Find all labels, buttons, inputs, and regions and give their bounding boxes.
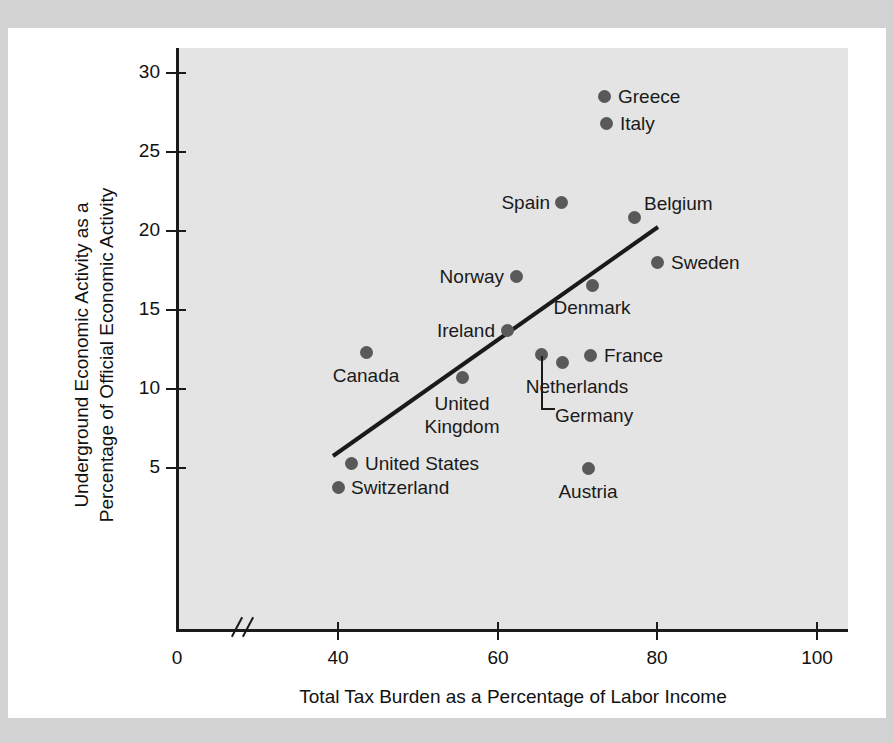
y-tick-label-10: 10 [124, 378, 160, 397]
x-tick-label-80: 80 [627, 648, 687, 667]
point-label-ireland: Ireland [371, 319, 495, 342]
y-tick-25 [166, 151, 186, 153]
point-label-germany: Germany [555, 404, 633, 427]
point-label-united-kingdom: United Kingdom [400, 392, 524, 438]
point-label-greece: Greece [618, 85, 680, 108]
point-label-norway: Norway [380, 265, 504, 288]
x-axis-line [176, 629, 848, 632]
data-point-denmark[interactable] [586, 279, 599, 292]
data-point-united-kingdom[interactable] [456, 371, 469, 384]
y-tick-10 [166, 388, 186, 390]
point-label-belgium: Belgium [644, 192, 713, 215]
point-label-france: France [604, 344, 663, 367]
plot-area [178, 48, 848, 630]
y-tick-15 [166, 309, 186, 311]
x-tick-label-40: 40 [308, 648, 368, 667]
x-tick-40 [337, 622, 339, 640]
data-point-united-states[interactable] [345, 457, 358, 470]
y-tick-labels: 30 25 20 15 10 5 [118, 0, 160, 743]
x-tick-label-0: 0 [147, 648, 207, 667]
x-axis-break-icon [230, 612, 264, 642]
data-point-france[interactable] [584, 349, 597, 362]
y-tick-5 [166, 467, 186, 469]
point-label-united-states: United States [365, 452, 479, 475]
x-tick-label-100: 100 [787, 648, 847, 667]
x-tick-100 [816, 622, 818, 640]
point-label-austria: Austria [528, 480, 648, 503]
point-label-spain: Spain [426, 191, 550, 214]
data-point-sweden[interactable] [651, 256, 664, 269]
y-tick-label-30: 30 [124, 62, 160, 81]
data-point-ireland[interactable] [501, 324, 514, 337]
point-label-denmark: Denmark [522, 296, 662, 319]
point-label-switzerland: Switzerland [351, 476, 449, 499]
data-point-belgium[interactable] [628, 211, 641, 224]
y-tick-20 [166, 230, 186, 232]
data-point-spain[interactable] [555, 196, 568, 209]
data-point-netherlands[interactable] [556, 356, 569, 369]
x-axis-title: Total Tax Burden as a Percentage of Labo… [178, 686, 848, 708]
x-tick-80 [656, 622, 658, 640]
y-tick-label-5: 5 [124, 457, 160, 476]
data-point-greece[interactable] [598, 90, 611, 103]
y-tick-30 [166, 72, 186, 74]
y-tick-label-15: 15 [124, 299, 160, 318]
y-tick-label-20: 20 [124, 220, 160, 239]
y-tick-label-25: 25 [124, 141, 160, 160]
x-tick-60 [497, 622, 499, 640]
scatter-plot-figure: 30 25 20 15 10 5 0 40 60 80 100 Greece I… [0, 0, 894, 743]
data-point-switzerland[interactable] [332, 481, 345, 494]
data-point-italy[interactable] [600, 117, 613, 130]
germany-leader-line [541, 356, 555, 410]
y-axis-line [176, 48, 179, 632]
x-tick-label-60: 60 [468, 648, 528, 667]
data-point-austria[interactable] [582, 462, 595, 475]
point-label-sweden: Sweden [671, 251, 740, 274]
data-point-norway[interactable] [510, 270, 523, 283]
point-label-italy: Italy [620, 112, 655, 135]
data-point-canada[interactable] [360, 346, 373, 359]
point-label-canada: Canada [306, 364, 426, 387]
y-axis-title: Underground Economic Activity as a Perce… [69, 75, 119, 635]
